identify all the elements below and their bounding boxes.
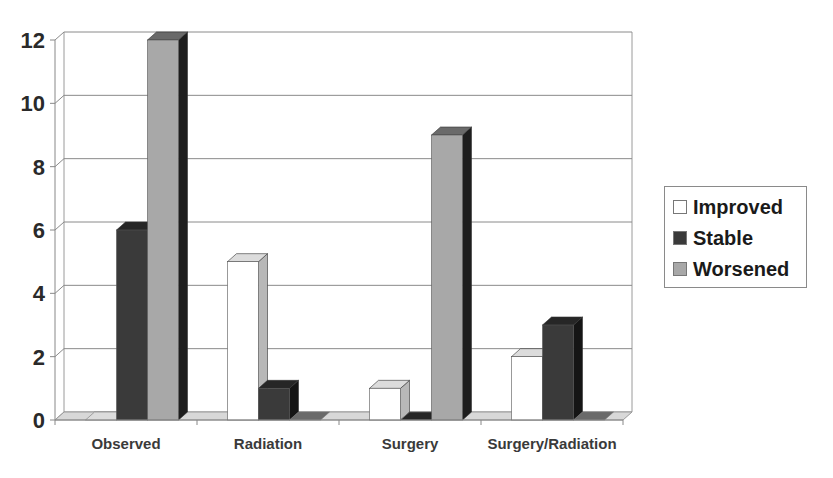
bar-stable-radiation: [259, 380, 299, 420]
y-tick-label: 12: [21, 28, 45, 53]
chart-legend: Improved Stable Worsened: [664, 186, 807, 288]
legend-item-stable: Stable: [673, 226, 753, 250]
x-tick-label: Surgery/Radiation: [487, 435, 616, 452]
bar-series: [86, 32, 614, 420]
x-axis-tick-labels: ObservedRadiationSurgerySurgery/Radiatio…: [55, 420, 623, 452]
y-tick-label: 2: [33, 345, 45, 370]
legend-swatch-improved: [673, 200, 687, 214]
bar-worsened-observed: [148, 32, 188, 420]
legend-item-worsened: Worsened: [673, 257, 789, 281]
legend-label: Improved: [693, 196, 783, 219]
legend-swatch-worsened: [673, 262, 687, 276]
bar-worsened-surgery: [432, 127, 472, 420]
x-tick-label: Radiation: [234, 435, 302, 452]
y-tick-label: 8: [33, 155, 45, 180]
legend-label: Worsened: [693, 258, 789, 281]
legend-item-improved: Improved: [673, 195, 783, 219]
y-tick-label: 4: [33, 281, 46, 306]
x-tick-label: Surgery: [382, 435, 439, 452]
y-tick-label: 0: [33, 408, 45, 433]
x-tick-label: Observed: [91, 435, 160, 452]
bar-stable-surgery-radiation: [543, 317, 583, 420]
bar-improved-surgery: [370, 380, 410, 420]
legend-label: Stable: [693, 227, 753, 250]
legend-swatch-stable: [673, 231, 687, 245]
y-tick-label: 10: [21, 91, 45, 116]
y-axis-tick-labels: 024681012: [21, 28, 55, 433]
y-tick-label: 6: [33, 218, 45, 243]
